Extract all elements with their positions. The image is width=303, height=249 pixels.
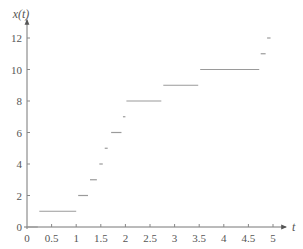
x-tick-label: 4	[221, 232, 227, 244]
x-axis-label: t	[292, 220, 296, 234]
step-segments	[27, 38, 271, 227]
y-tick-label: 8	[17, 95, 23, 107]
x-tick-label: 0	[24, 232, 30, 244]
y-tick-label: 6	[17, 127, 23, 139]
y-tick-label: 4	[17, 158, 23, 170]
y-tick-label: 12	[11, 32, 22, 44]
x-tick-label: 3.5	[192, 232, 206, 244]
y-tick-label: 10	[11, 64, 23, 76]
x-tick-label: 1.5	[94, 232, 108, 244]
step-chart: 00.511.522.533.544.55024681012 x(t) t	[0, 0, 303, 249]
x-tick-label: 4.5	[242, 232, 256, 244]
x-tick-label: 1	[73, 232, 79, 244]
y-tick-label: 2	[17, 190, 23, 202]
x-tick-label: 2.5	[143, 232, 157, 244]
x-tick-label: 3	[172, 232, 178, 244]
x-tick-label: 2	[123, 232, 129, 244]
ticks: 00.511.522.533.544.55024681012	[11, 32, 276, 244]
y-tick-label: 0	[17, 221, 23, 233]
x-tick-label: 5	[270, 232, 276, 244]
x-tick-label: 0.5	[45, 232, 59, 244]
axes	[24, 20, 286, 229]
y-axis-label: x(t)	[12, 7, 30, 21]
